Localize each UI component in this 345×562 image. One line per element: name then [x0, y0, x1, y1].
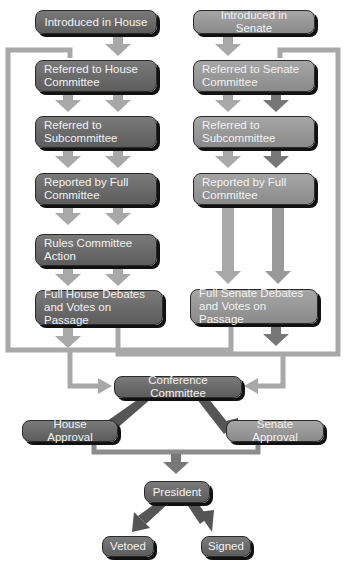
- signed-label: Signed: [208, 540, 244, 553]
- house-reported-label: Reported by Full Committee: [44, 176, 128, 202]
- senate-approval-label: Senate Approval: [235, 418, 315, 444]
- senate-reported-box: Reported by Full Committee: [193, 173, 315, 205]
- house-introduced-label: Introduced in House: [45, 16, 148, 29]
- conference-committee-label: Conference Committee: [123, 374, 233, 400]
- senate-introduced-box: Introduced in Senate: [193, 10, 315, 34]
- senate-approval-box: Senate Approval: [226, 420, 324, 442]
- president-label: President: [153, 486, 202, 499]
- house-debates-box: Full House Debates and Votes on Passage: [35, 290, 163, 325]
- senate-committee-label: Referred to Senate Committee: [202, 63, 299, 89]
- signed-box: Signed: [201, 536, 251, 557]
- house-approval-label: House Approval: [31, 418, 109, 444]
- senate-committee-box: Referred to Senate Committee: [193, 60, 315, 92]
- house-debates-label: Full House Debates and Votes on Passage: [44, 288, 154, 327]
- president-box: President: [144, 481, 210, 503]
- house-introduced-box: Introduced in House: [35, 10, 157, 34]
- house-committee-box: Referred to House Committee: [35, 60, 157, 92]
- house-committee-label: Referred to House Committee: [44, 63, 138, 89]
- conference-committee-box: Conference Committee: [114, 376, 242, 398]
- house-reported-box: Reported by Full Committee: [35, 173, 157, 205]
- senate-reported-label: Reported by Full Committee: [202, 176, 286, 202]
- senate-introduced-label: Introduced in Senate: [202, 9, 306, 35]
- senate-debates-label: Full Senate Debates and Votes on Passage: [199, 287, 309, 326]
- house-approval-box: House Approval: [22, 420, 118, 442]
- house-rules-label: Rules Committee Action: [44, 237, 132, 263]
- house-subcommittee-label: Referred to Subcommittee: [44, 119, 118, 145]
- senate-subcommittee-box: Referred to Subcommittee: [193, 116, 315, 148]
- vetoed-label: Vetoed: [110, 540, 146, 553]
- bill-process-diagram: Introduced in House Referred to House Co…: [0, 0, 345, 562]
- senate-subcommittee-label: Referred to Subcommittee: [202, 119, 276, 145]
- house-subcommittee-box: Referred to Subcommittee: [35, 116, 157, 148]
- senate-debates-box: Full Senate Debates and Votes on Passage: [190, 289, 318, 324]
- vetoed-box: Vetoed: [102, 536, 154, 557]
- house-rules-box: Rules Committee Action: [35, 234, 157, 266]
